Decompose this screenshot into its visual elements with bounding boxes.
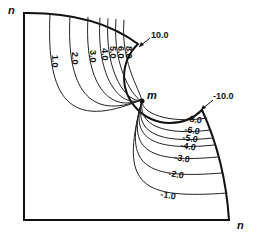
callout-top-label: 10.0 (151, 30, 169, 40)
negative-contour-line (137, 101, 217, 158)
callout-right-label: -10.0 (213, 91, 234, 101)
negative-contour-label: -3.0 (174, 152, 191, 165)
corner-label-top-left: n (8, 4, 15, 16)
callout-arrowhead-right (201, 105, 206, 110)
positive-contour-label: 2.0 (70, 52, 80, 65)
point-m-label: m (147, 89, 157, 101)
positive-contour-label: 8.0 (124, 46, 134, 59)
callout-arrowhead-top (139, 42, 144, 47)
negative-contour-label: -4.0 (180, 140, 197, 153)
negative-contour-label: -1.0 (160, 189, 177, 202)
positive-contour-label: 3.0 (88, 50, 98, 63)
point-m-marker (140, 99, 145, 104)
negative-contour-label: -2.0 (168, 168, 185, 181)
corner-label-bottom-right: n (237, 219, 244, 231)
contour-diagram: 1.02.03.04.05.06.08.0 -8.0-6.0-5.0-4.0-3… (0, 0, 256, 235)
positive-contour-label: 1.0 (50, 55, 60, 68)
